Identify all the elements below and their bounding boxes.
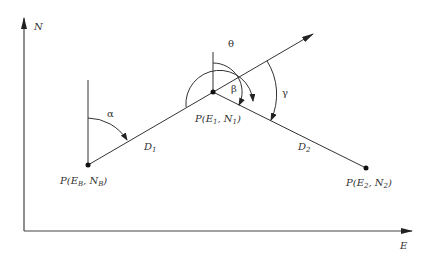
- line-d2: [213, 92, 366, 168]
- gamma-arc: [267, 61, 277, 120]
- point-station: [211, 90, 216, 95]
- east-axis-label: E: [399, 240, 408, 251]
- alpha-label: α: [107, 108, 114, 119]
- alpha-arc: [88, 118, 127, 140]
- point-foresight-label: P(E2, N2): [345, 177, 392, 190]
- theta-label: θ: [228, 38, 234, 49]
- point-backsight-label: P(EB, NB): [59, 175, 107, 188]
- north-axis-label: N: [33, 21, 44, 32]
- line-d1-extended: [88, 34, 313, 165]
- gamma-label: γ: [282, 87, 288, 98]
- point-backsight: [86, 163, 91, 168]
- surveying-traverse-diagram: N E α β θ γ D1 D2 P(EB, NB) P(E1, N1) P(…: [0, 0, 433, 258]
- distance-d2-label: D2: [297, 141, 311, 154]
- beta-label: β: [231, 83, 237, 94]
- distance-d1-label: D1: [143, 141, 157, 154]
- point-foresight: [364, 166, 369, 171]
- point-station-label: P(E1, N1): [194, 113, 241, 126]
